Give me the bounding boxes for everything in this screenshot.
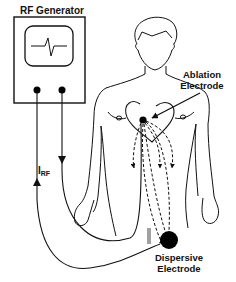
dispersive-electrode-label: Dispersive Electrode xyxy=(144,252,214,274)
current-path-2 xyxy=(142,124,163,245)
rf-current-label: IRF xyxy=(38,165,50,177)
generator-terminal-left xyxy=(34,87,41,94)
body-outline xyxy=(74,17,218,244)
rf-ablation-diagram: RF Generator Ablation Electrode Dispersi… xyxy=(0,0,236,282)
current-subscript: RF xyxy=(41,170,50,177)
rf-generator-label: RF Generator xyxy=(20,5,84,16)
current-paths xyxy=(133,121,172,245)
ablation-electrode-label: Ablation Electrode xyxy=(178,69,226,91)
ablation-label-line2: Electrode xyxy=(178,80,226,91)
generator-terminal-right xyxy=(59,87,66,94)
dispersive-label-line2: Electrode xyxy=(144,263,214,274)
ecg-waveform-icon xyxy=(31,38,67,56)
dispersive-electrode xyxy=(160,231,178,249)
catheter-wire xyxy=(62,93,141,241)
arrow-down-icon xyxy=(58,156,66,164)
ablation-pointer-arrow xyxy=(152,93,200,118)
arrow-up-icon xyxy=(33,178,41,186)
ablation-electrode xyxy=(139,116,146,123)
ablation-label-line1: Ablation xyxy=(178,69,226,80)
rf-generator xyxy=(14,17,85,103)
dispersive-label-line1: Dispersive xyxy=(144,252,214,263)
diagram-drawing xyxy=(0,0,236,282)
current-path-6 xyxy=(144,124,170,245)
